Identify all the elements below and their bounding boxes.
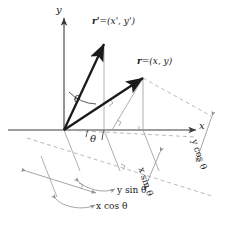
vector-r-prime-label: r'=(x', y') — [92, 16, 135, 26]
rotated-frame-guides — [27, 78, 212, 196]
vector-r-components: (x, y) — [149, 56, 172, 66]
coordinate-axes — [8, 18, 196, 130]
drop-origin — [64, 130, 80, 171]
right-angle-mark-4 — [121, 164, 125, 170]
r-slant-left — [112, 78, 143, 130]
drop-ycos-a — [104, 130, 120, 171]
dim-baseline-left — [26, 171, 96, 193]
right-angle-mark-1 — [139, 126, 143, 130]
dim-label-x-cos-theta: x cos θ — [96, 201, 127, 211]
vector-r-prime-equals: = — [100, 16, 108, 26]
y-axis-label: y — [56, 4, 62, 15]
dim-label-y-sin-theta: y sin θ — [117, 185, 147, 195]
vector-r-prime-components: (x', y') — [107, 16, 135, 26]
guide-r-to-ycos — [143, 78, 211, 116]
vector-r-label: r=(x, y) — [137, 56, 172, 66]
vector-arrows — [64, 44, 143, 130]
arc-theta-axis — [102, 130, 104, 140]
theta-below-axis-label: θ — [90, 133, 96, 144]
vector-r-prime-symbol: r' — [92, 16, 100, 26]
vector-rotation-figure: y x r'=(x', y') r=(x, y) θ θ y cos θ x s… — [0, 0, 235, 229]
guide-origin-diag — [64, 130, 196, 137]
dim-x-cos-theta — [56, 199, 95, 208]
drop-xsin-a — [143, 130, 159, 171]
x-axis-label: x — [199, 120, 205, 131]
theta-between-vectors-label: θ — [74, 93, 80, 104]
